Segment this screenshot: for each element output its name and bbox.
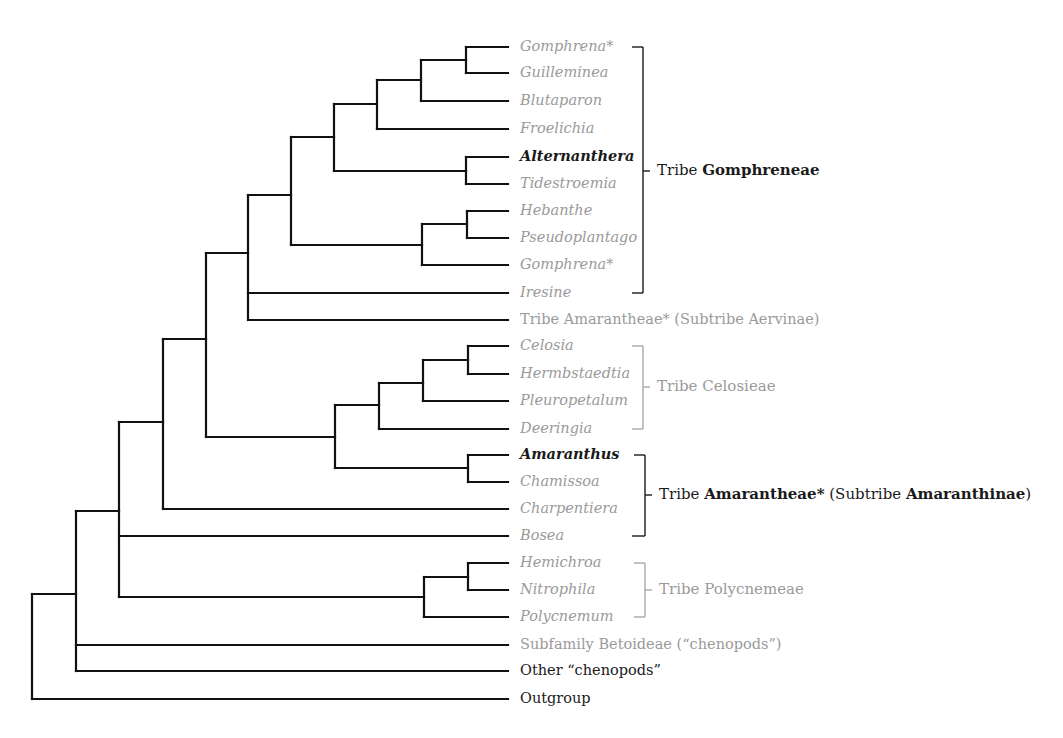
group-label-part: Tribe Polycnemeae [659, 580, 804, 598]
group-label-part: Tribe Celosieae [657, 377, 776, 395]
group-label-part: (Subtribe [824, 485, 905, 503]
leaf-label-outgroup: Outgroup [520, 689, 591, 707]
leaf-label-betoideae: Subfamily Betoideae (“chenopods”) [520, 635, 782, 653]
leaf-label-hermbstaedtia: Hermbstaedtia [520, 364, 630, 382]
leaf-label-blutaparon: Blutaparon [520, 91, 602, 109]
group-label-gomphreneae: Tribe Gomphreneae [657, 161, 819, 179]
group-label-part: Tribe [659, 485, 704, 503]
tree-branches [32, 47, 508, 699]
leaf-label-hebanthe: Hebanthe [520, 201, 592, 219]
group-label-part: Amaranthinae [906, 485, 1025, 503]
leaf-label-iresine: Iresine [520, 283, 571, 301]
leaf-label-bosea: Bosea [520, 526, 564, 544]
leaf-label-gomphrena2: Gomphrena* [520, 255, 613, 273]
leaf-label-pseudoplantago: Pseudoplantago [520, 228, 637, 246]
leaf-label-alternanthera: Alternanthera [520, 147, 634, 165]
leaf-label-hemichroa: Hemichroa [520, 553, 601, 571]
leaf-label-aervinae: Tribe Amarantheae* (Subtribe Aervinae) [520, 310, 819, 328]
leaf-label-deeringia: Deeringia [520, 419, 592, 437]
leaf-label-guilleminea: Guilleminea [520, 63, 608, 81]
group-label-part: Amarantheae* [704, 485, 824, 503]
leaf-label-pleuropetalum: Pleuropetalum [520, 391, 628, 409]
leaf-label-amaranthus: Amaranthus [520, 445, 620, 463]
leaf-label-polycnemum: Polycnemum [520, 607, 614, 625]
leaf-label-gomphrena1: Gomphrena* [520, 37, 613, 55]
leaf-label-nitrophila: Nitrophila [520, 580, 595, 598]
leaf-label-tidestroemia: Tidestroemia [520, 174, 617, 192]
leaf-label-charpentiera: Charpentiera [520, 499, 618, 517]
group-brackets [632, 47, 652, 617]
group-label-celosieae: Tribe Celosieae [657, 377, 776, 395]
leaf-label-celosia: Celosia [520, 336, 574, 354]
leaf-label-other-chenopods: Other “chenopods” [520, 661, 661, 679]
group-label-polycnemeae: Tribe Polycnemeae [659, 580, 804, 598]
leaf-label-chamissoa: Chamissoa [520, 472, 600, 490]
group-label-amaranthinae: Tribe Amarantheae* (Subtribe Amaranthina… [659, 485, 1031, 503]
leaf-label-froelichia: Froelichia [520, 119, 594, 137]
group-label-part: Gomphreneae [702, 161, 819, 179]
group-label-part: Tribe [657, 161, 702, 179]
group-label-part: ) [1025, 485, 1031, 503]
